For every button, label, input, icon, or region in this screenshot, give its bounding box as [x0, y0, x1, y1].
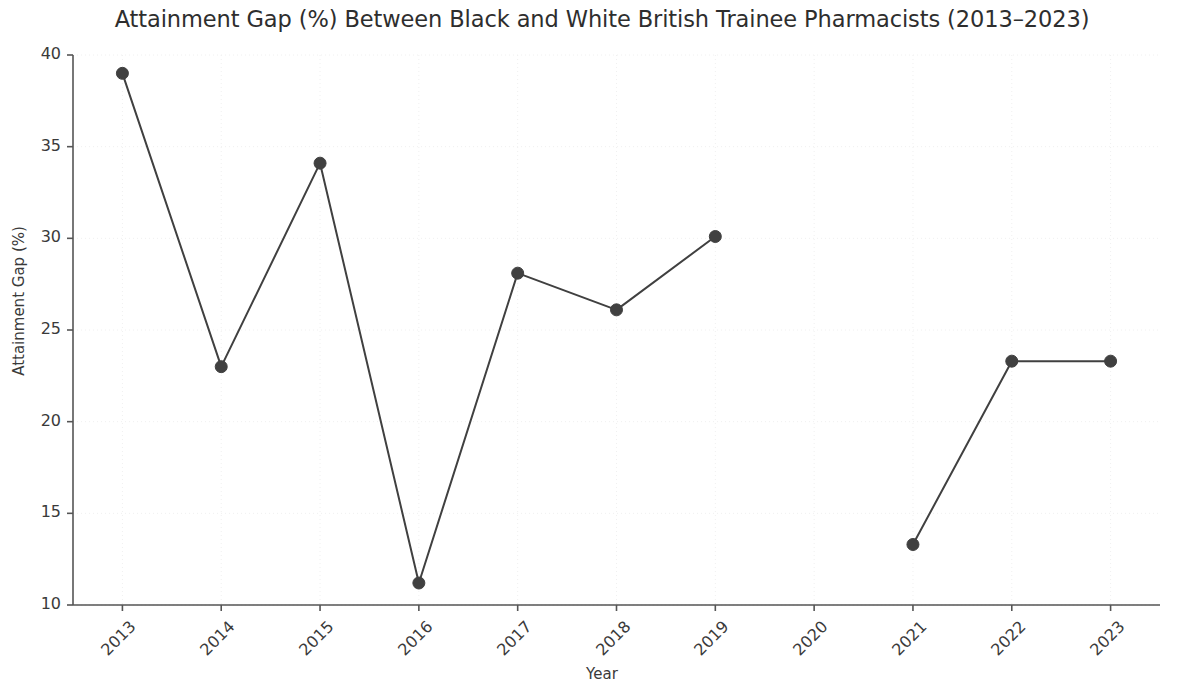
y-tick-label: 30 — [1, 227, 61, 246]
data-point-marker — [413, 577, 425, 589]
y-tick-label: 25 — [1, 319, 61, 338]
data-point-marker — [907, 539, 919, 551]
axis-spines — [73, 55, 1160, 605]
plot-area — [0, 0, 1204, 691]
data-point-marker — [709, 231, 721, 243]
y-tick-label: 35 — [1, 136, 61, 155]
y-tick-label: 10 — [1, 594, 61, 613]
data-point-marker — [215, 361, 227, 373]
data-point-marker — [611, 304, 623, 316]
gridlines — [73, 55, 1160, 605]
data-point-marker — [116, 67, 128, 79]
data-line-series — [122, 73, 1110, 583]
data-point-marker — [314, 157, 326, 169]
axis-ticks — [67, 55, 1111, 611]
chart-figure: Attainment Gap (%) Between Black and Whi… — [0, 0, 1204, 691]
y-tick-label: 40 — [1, 44, 61, 63]
data-point-marker — [512, 267, 524, 279]
y-tick-label: 20 — [1, 411, 61, 430]
data-point-marker — [1006, 355, 1018, 367]
data-line-segment — [122, 73, 715, 583]
data-point-markers — [116, 67, 1116, 589]
data-point-marker — [1105, 355, 1117, 367]
y-tick-label: 15 — [1, 502, 61, 521]
data-line-segment — [913, 361, 1111, 544]
